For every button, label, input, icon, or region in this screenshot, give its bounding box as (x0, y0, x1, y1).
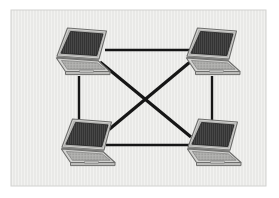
network-topology-diagram: Laptop top left Laptop top right Laptop … (0, 0, 279, 198)
diagram-canvas: Laptop top left Laptop top right Laptop … (0, 0, 279, 198)
